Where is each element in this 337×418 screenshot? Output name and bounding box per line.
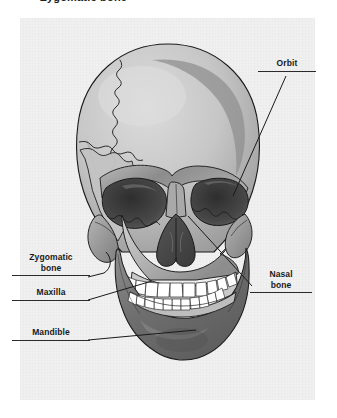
label-maxilla-text: Maxilla xyxy=(36,287,65,297)
label-maxilla-rule xyxy=(12,300,90,301)
figure-page: Zygomatic bone xyxy=(0,0,337,418)
label-zygomatic-bone: Zygomatic bone xyxy=(12,252,90,276)
label-mandible-rule xyxy=(12,340,90,341)
label-orbit-rule xyxy=(258,71,316,72)
label-nasal-line2: bone xyxy=(271,280,292,290)
label-zygomatic-line1: Zygomatic xyxy=(29,252,72,262)
label-mandible-text: Mandible xyxy=(32,327,70,337)
label-maxilla: Maxilla xyxy=(12,287,90,301)
label-nasal-rule xyxy=(250,292,312,293)
label-nasal-bone: Nasal bone xyxy=(250,269,312,293)
label-orbit: Orbit xyxy=(258,58,316,72)
label-zygomatic-line2: bone xyxy=(41,263,62,273)
label-zygomatic-rule xyxy=(12,275,90,276)
label-nasal-line1: Nasal xyxy=(269,269,292,279)
label-mandible: Mandible xyxy=(12,327,90,341)
label-orbit-text: Orbit xyxy=(277,58,298,68)
